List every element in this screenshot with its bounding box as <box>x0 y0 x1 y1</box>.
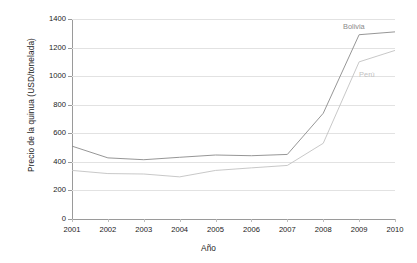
y-tick-label: 1200 <box>14 43 66 52</box>
quinoa-price-line-chart: Precio de la quinua (USD/tonelada) Año B… <box>0 0 417 263</box>
series-label-bolivia: Bolivia <box>343 22 365 31</box>
y-tick-label: 600 <box>14 128 66 137</box>
y-tick-label: 1400 <box>14 14 66 23</box>
x-tick-label: 2003 <box>124 225 164 234</box>
x-tick-mark <box>287 219 288 222</box>
x-tick-mark <box>108 219 109 222</box>
series-line-bolivia <box>72 32 395 160</box>
x-tick-mark <box>180 219 181 222</box>
x-tick-mark <box>216 219 217 222</box>
y-tick-label: 1000 <box>14 71 66 80</box>
x-tick-label: 2010 <box>375 225 415 234</box>
x-tick-label: 2001 <box>52 225 92 234</box>
x-tick-label: 2008 <box>303 225 343 234</box>
x-tick-label: 2007 <box>267 225 307 234</box>
x-axis-title: Año <box>0 243 417 253</box>
x-tick-mark <box>323 219 324 222</box>
y-tick-label: 200 <box>14 185 66 194</box>
series-lines <box>72 19 395 219</box>
x-tick-mark <box>72 219 73 222</box>
plot-area: BoliviaPerú <box>72 19 395 219</box>
x-tick-label: 2004 <box>160 225 200 234</box>
x-tick-label: 2005 <box>196 225 236 234</box>
y-tick-label: 0 <box>14 214 66 223</box>
x-tick-mark <box>251 219 252 222</box>
x-axis-line <box>72 219 395 220</box>
x-tick-mark <box>395 219 396 222</box>
x-tick-label: 2009 <box>339 225 379 234</box>
x-tick-mark <box>144 219 145 222</box>
x-tick-label: 2006 <box>231 225 271 234</box>
series-label-perú: Perú <box>359 70 375 79</box>
y-tick-label: 400 <box>14 157 66 166</box>
y-tick-label: 800 <box>14 100 66 109</box>
series-line-perú <box>72 50 395 176</box>
x-tick-mark <box>359 219 360 222</box>
x-tick-label: 2002 <box>88 225 128 234</box>
